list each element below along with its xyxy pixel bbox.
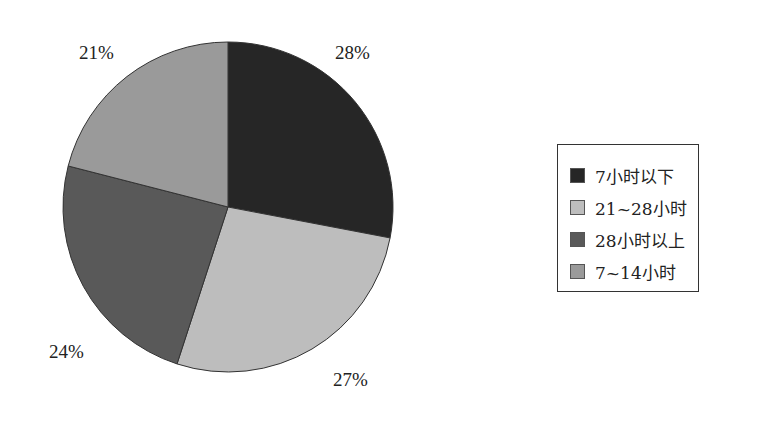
legend-label: 7~14小时 [595, 259, 676, 284]
slice-label-21-28h: 27% [333, 369, 368, 391]
legend-label: 21~28小时 [595, 195, 687, 220]
slice-label-7h-below: 28% [335, 42, 370, 64]
legend-item-21-28h: 21~28小时 [558, 191, 698, 223]
slice-label-28h-above: 24% [49, 341, 84, 363]
legend-swatch [570, 232, 585, 247]
legend-item-28h-above: 28小时以上 [558, 223, 698, 255]
legend-label: 28小时以上 [595, 227, 685, 252]
legend-item-7-14h: 7~14小时 [558, 255, 698, 287]
legend-swatch [570, 264, 585, 279]
slice-label-7-14h: 21% [79, 42, 114, 64]
legend-item-7h-below: 7小时以下 [558, 159, 698, 191]
legend-label: 7小时以下 [595, 163, 674, 188]
pie-slice [228, 42, 393, 238]
legend-swatch [570, 200, 585, 215]
legend: 7小时以下 21~28小时 28小时以上 7~14小时 [557, 144, 699, 292]
pie-slices [63, 42, 393, 372]
legend-swatch [570, 168, 585, 183]
